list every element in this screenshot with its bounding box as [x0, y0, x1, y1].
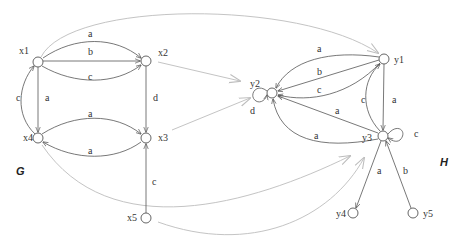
label-x1-x2-c: c	[88, 71, 93, 82]
label-x5-x3-c: c	[152, 176, 157, 187]
edge-y1-y2-a	[276, 55, 379, 88]
label-y2-loop-d: d	[250, 105, 255, 116]
node-x5	[141, 213, 151, 223]
node-label-x3: x3	[158, 132, 168, 143]
graph-g-edge-labels: a b c a c d a a c	[16, 28, 158, 187]
node-label-x2: x2	[158, 47, 168, 58]
label-y1-y2-b: b	[317, 66, 322, 77]
graph-title-h: H	[440, 156, 449, 168]
node-label-y1: y1	[394, 54, 404, 65]
node-label-x4: x4	[23, 132, 33, 143]
label-x1-x2-b: b	[88, 46, 93, 57]
hom-x3-y2	[172, 98, 250, 130]
node-label-y2: y2	[250, 78, 260, 89]
label-y1-y2-a: a	[317, 43, 322, 54]
node-x4	[33, 133, 43, 143]
node-x1	[33, 57, 43, 67]
edge-y1-y2-b	[278, 60, 379, 91]
edge-x4-x3-a	[42, 118, 141, 134]
edge-y1-y3-a	[383, 64, 384, 130]
node-x2	[141, 56, 151, 66]
node-y1	[379, 54, 389, 64]
label-y3-y2-a-curved: a	[314, 130, 319, 141]
label-y3-y4-a: a	[377, 165, 382, 176]
edge-y1-y2-c	[278, 63, 380, 98]
graph-title-g: G	[16, 165, 25, 177]
hom-x5-y3	[158, 158, 364, 235]
node-y3	[378, 131, 388, 141]
label-y5-y3-b: b	[403, 165, 408, 176]
node-y4	[348, 208, 358, 218]
label-x1-x2-a: a	[88, 28, 93, 39]
node-y5	[408, 208, 418, 218]
hom-x2-y2	[158, 62, 240, 81]
node-label-y3: y3	[362, 132, 372, 143]
label-y1-y2-c: c	[317, 84, 322, 95]
node-label-y4: y4	[336, 208, 346, 219]
label-y3-y1-c: c	[361, 94, 366, 105]
node-label-x5: x5	[127, 212, 137, 223]
node-label-y5: y5	[423, 208, 433, 219]
label-x3-x4-a: a	[88, 145, 93, 156]
edge-y2-loop-d	[253, 88, 267, 102]
label-y3-y2-a-straight: a	[335, 105, 340, 116]
edge-y3-loop-c	[388, 128, 403, 141]
label-x4-x1-c: c	[16, 92, 21, 103]
graph-homomorphism-diagram: a b c a c d a a c a b c a a d a c c a b …	[0, 0, 460, 240]
graph-h-edges	[253, 55, 411, 208]
label-x2-x3-d: d	[153, 92, 158, 103]
label-x1-x4-a: a	[45, 92, 50, 103]
node-label-x1: x1	[19, 45, 29, 56]
graph-g-edges	[21, 42, 146, 214]
label-y3-loop-c: c	[414, 128, 419, 139]
edge-x4-x1-c	[21, 66, 35, 134]
label-y1-y3-a: a	[392, 94, 397, 105]
node-x3	[141, 133, 151, 143]
node-y2	[267, 88, 277, 98]
label-x4-x3-a: a	[88, 108, 93, 119]
